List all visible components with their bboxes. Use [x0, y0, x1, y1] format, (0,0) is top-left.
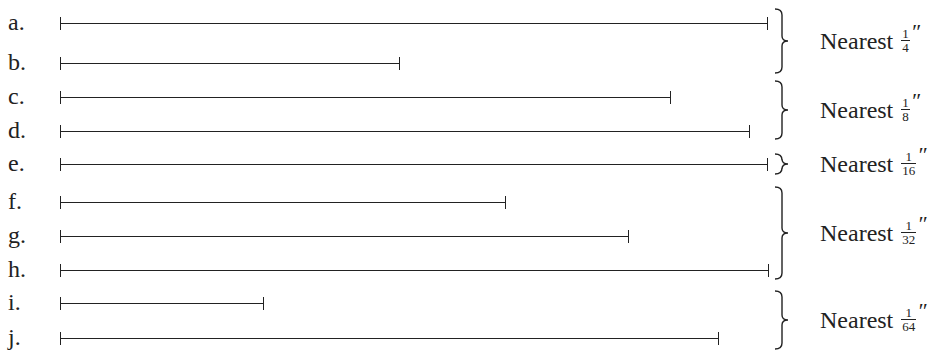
row-label: f. — [8, 189, 22, 213]
fraction: 132 — [901, 219, 916, 246]
line-segment — [61, 270, 768, 271]
row-label: h. — [8, 257, 26, 281]
line-segment — [61, 131, 749, 132]
row-label: e. — [8, 151, 25, 175]
inch-mark: ″ — [911, 20, 920, 44]
line-segment — [61, 202, 505, 203]
fraction: 116 — [901, 150, 916, 177]
line-segment — [61, 97, 670, 98]
right-brace-icon — [772, 290, 794, 350]
right-brace-icon — [772, 80, 794, 140]
nearest-label: Nearest116″ — [820, 150, 926, 177]
fraction: 164 — [901, 306, 916, 333]
line-segment — [61, 338, 718, 339]
fraction: 14 — [901, 27, 910, 54]
line-segment — [61, 236, 628, 237]
row-label: g. — [8, 223, 26, 247]
inch-mark: ″ — [917, 143, 926, 167]
line-segment — [61, 23, 767, 24]
inch-mark: ″ — [917, 212, 926, 236]
row-label: d. — [8, 118, 26, 142]
row-label: c. — [8, 84, 25, 108]
line-segment — [61, 164, 767, 165]
nearest-label: Nearest164″ — [820, 306, 926, 333]
nearest-label: Nearest18″ — [820, 96, 920, 123]
fraction: 18 — [901, 96, 910, 123]
row-label: b. — [8, 50, 26, 74]
row-label: i. — [8, 290, 21, 314]
right-brace-icon — [772, 186, 794, 280]
right-brace-icon — [772, 8, 794, 74]
row-label: j. — [8, 325, 21, 349]
line-segment — [61, 63, 399, 64]
inch-mark: ″ — [917, 299, 926, 323]
nearest-label: Nearest132″ — [820, 219, 926, 246]
inch-mark: ″ — [911, 89, 920, 113]
line-segment — [61, 303, 263, 304]
row-label: a. — [8, 10, 25, 34]
right-brace-icon — [772, 153, 794, 175]
nearest-label: Nearest14″ — [820, 27, 920, 54]
